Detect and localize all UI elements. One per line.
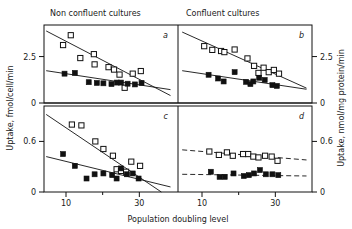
datapoint-d-open-8 — [262, 153, 267, 158]
datapoint-b-open-8 — [261, 65, 266, 70]
datapoint-d-open-10 — [275, 158, 280, 163]
datapoint-d-closed-4 — [241, 173, 246, 178]
fit-line-c-closed-squares — [46, 157, 170, 187]
datapoint-c-closed-10 — [136, 176, 141, 181]
datapoint-b-open-4 — [232, 47, 237, 52]
datapoint-b-closed-0 — [206, 72, 211, 77]
datapoint-b-open-11 — [276, 71, 281, 76]
datapoint-d-closed-5 — [246, 173, 251, 178]
datapoint-b-closed-1 — [216, 76, 221, 81]
datapoint-c-open-3 — [101, 146, 106, 151]
datapoint-a-closed-3 — [94, 80, 99, 85]
y-ticklabel-left-0point6: 0.6 — [23, 137, 36, 146]
datapoint-c-open-4 — [110, 153, 115, 158]
datapoint-a-open-2 — [78, 55, 83, 60]
datapoint-a-open-1 — [68, 33, 73, 38]
x-ticklabel-left-30: 30 — [134, 199, 144, 208]
datapoint-a-open-4 — [92, 62, 97, 67]
datapoint-d-closed-3 — [231, 171, 236, 176]
datapoint-d-closed-6 — [252, 171, 257, 176]
datapoint-b-open-9 — [266, 70, 271, 75]
column-title-confluent: Confluent cultures — [186, 9, 259, 18]
panel-b-data — [182, 32, 306, 89]
panel-a-data — [46, 31, 170, 96]
datapoint-b-open-7 — [256, 70, 261, 75]
datapoint-d-open-5 — [246, 151, 251, 156]
datapoint-a-closed-9 — [132, 82, 137, 87]
panel-label-d: d — [299, 112, 305, 121]
datapoint-d-open-4 — [240, 151, 245, 156]
datapoint-d-closed-9 — [270, 172, 275, 177]
datapoint-c-closed-2 — [84, 176, 89, 181]
panel-label-a: a — [163, 31, 168, 40]
datapoint-c-open-8 — [129, 159, 134, 164]
datapoint-c-open-9 — [137, 163, 142, 168]
datapoint-d-closed-7 — [257, 168, 262, 173]
datapoint-b-closed-10 — [274, 83, 279, 88]
datapoint-a-closed-8 — [125, 81, 130, 86]
datapoint-a-closed-2 — [86, 80, 91, 85]
y-ticklabel-right-0point6: 0.6 — [320, 137, 333, 146]
datapoint-d-open-0 — [207, 149, 212, 154]
datapoint-d-open-6 — [251, 154, 256, 159]
datapoint-b-open-1 — [210, 47, 215, 52]
axes-frame — [44, 25, 312, 192]
datapoint-a-open-7 — [117, 72, 122, 77]
datapoint-d-open-7 — [256, 155, 261, 160]
datapoint-a-open-6 — [111, 67, 116, 72]
datapoint-d-closed-8 — [263, 172, 268, 177]
datapoint-b-open-0 — [202, 44, 207, 49]
datapoint-d-closed-0 — [208, 169, 213, 174]
panel-d-data — [182, 149, 306, 179]
datapoint-d-open-3 — [230, 153, 235, 158]
y-ticklabel-left-2point5: 2.5 — [23, 53, 36, 62]
datapoint-c-closed-8 — [124, 172, 129, 177]
datapoint-c-closed-4 — [101, 171, 106, 176]
datapoint-d-closed-1 — [217, 174, 222, 179]
datapoint-c-open-1 — [79, 123, 84, 128]
datapoint-d-closed-10 — [276, 173, 281, 178]
datapoint-c-closed-0 — [61, 152, 66, 157]
y-ticklabel-left-zero-top: 0 — [31, 99, 36, 108]
datapoint-c-closed-7 — [119, 166, 124, 171]
datapoint-c-closed-9 — [130, 171, 135, 176]
datapoint-a-closed-1 — [72, 70, 77, 75]
datapoint-b-open-6 — [251, 63, 256, 68]
figure-canvas: 2.500.602.500.6010301030Non confluent cu… — [0, 0, 352, 229]
datapoint-b-closed-3 — [232, 70, 237, 75]
datapoint-c-closed-3 — [92, 172, 97, 177]
panel-label-c: c — [164, 112, 169, 121]
datapoint-a-closed-5 — [109, 82, 114, 87]
y-ticklabel-left-zero-bottom: 0 — [31, 188, 36, 197]
panel-c-data — [46, 114, 170, 192]
datapoint-a-open-5 — [106, 65, 111, 70]
panel-label-b: b — [299, 31, 304, 40]
datapoint-a-open-9 — [130, 71, 135, 76]
y-axis-label-right: Uptake, nmol/mg protein/min — [337, 49, 346, 167]
datapoint-d-open-1 — [216, 152, 221, 157]
fit-line-a-open-squares — [46, 31, 170, 96]
figure-root: 2.500.602.500.6010301030Non confluent cu… — [0, 0, 352, 229]
x-axis-label: Population doubling level — [128, 215, 229, 224]
datapoint-a-closed-0 — [62, 71, 67, 76]
y-ticklabel-right-zero-bottom: 0 — [320, 188, 325, 197]
y-axis-label-left: Uptake, fmol/cell/min — [6, 65, 15, 150]
x-ticklabel-right-30: 30 — [270, 199, 280, 208]
datapoint-b-open-10 — [271, 67, 276, 72]
datapoint-b-closed-8 — [262, 77, 267, 82]
datapoint-a-open-0 — [60, 42, 65, 47]
datapoint-d-open-9 — [269, 154, 274, 159]
datapoint-a-open-10 — [138, 68, 143, 73]
datapoint-b-open-5 — [245, 56, 250, 61]
datapoint-c-closed-1 — [72, 163, 77, 168]
datapoint-b-closed-7 — [257, 75, 262, 80]
x-ticklabel-right-10: 10 — [197, 199, 207, 208]
datapoint-a-open-3 — [91, 52, 96, 57]
datapoint-c-open-2 — [93, 139, 98, 144]
datapoint-a-closed-4 — [101, 81, 106, 86]
y-ticklabel-right-zero-top: 0 — [320, 99, 325, 108]
x-ticklabel-left-10: 10 — [61, 199, 71, 208]
datapoint-a-closed-7 — [119, 80, 124, 85]
datapoint-b-closed-2 — [221, 79, 226, 84]
y-ticklabel-right-2point5: 2.5 — [320, 53, 333, 62]
